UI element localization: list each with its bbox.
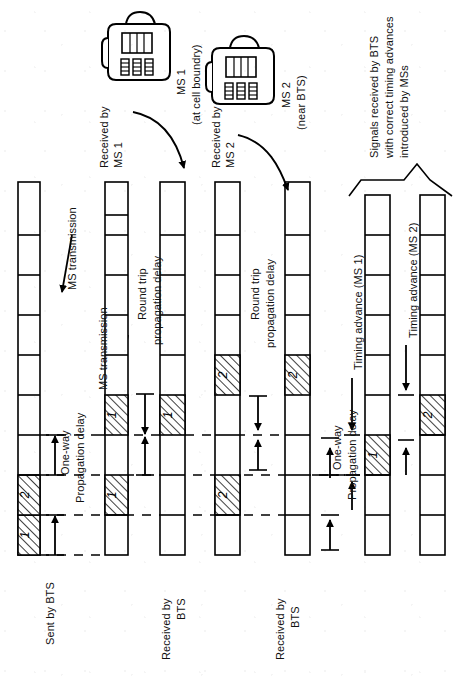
annotation-timing-advance-ms2: Timing advance (MS 2) (407, 223, 420, 338)
annotation-one-way-b-line2: Propagation delay (346, 410, 359, 500)
column-corrected-ms2 (420, 195, 445, 555)
annotation-round-trip-2-line2: propagation delay (264, 259, 277, 348)
round-trip-arrows-2 (249, 396, 267, 470)
annotation-one-way-a-line1: One-way (59, 430, 72, 475)
mobile-handset-icon-ms1 (102, 12, 170, 80)
bracket-note-line3: introduced by MSs (398, 65, 411, 158)
annotation-round-trip-1-line1: Round trip (136, 268, 149, 320)
label-received-by-ms1-line1: Received by (98, 106, 111, 168)
slot-number: 1 (161, 412, 175, 419)
slot-number: 2 (18, 491, 32, 499)
slot-number: 2 (216, 371, 230, 379)
label-received-by-ms1-line2: MS 1 (112, 142, 125, 168)
annotation-round-trip-1-line2: propagation delay (151, 256, 164, 345)
annotation-one-way-b-line1: One-way (331, 425, 344, 470)
annotation-round-trip-2-line1: Round trip (249, 268, 262, 320)
mobile-handset-icon-ms2 (206, 36, 274, 104)
label-received-by-bts-2-line2: BTS (289, 606, 302, 628)
timing-reference-lines (40, 435, 360, 555)
slot-number: 1 (366, 452, 380, 459)
annotation-ms-transmission-1: MS transmission (66, 207, 79, 290)
bracket-note-line2: with correct timing advances (383, 16, 396, 158)
slot-number: 1 (18, 532, 32, 539)
column-received-by-bts-2 (285, 182, 310, 555)
slot-number: 1 (105, 412, 119, 419)
annotation-ms-transmission-2: MS transmission (97, 307, 110, 390)
slot-number: 1 (105, 492, 119, 499)
device-qualifier-ms2: (near BTS) (295, 75, 308, 130)
device-qualifier-ms1: (at cell boundry) (190, 44, 203, 125)
device-name-ms2: MS 2 (280, 82, 293, 108)
slot-number: 2 (286, 371, 300, 379)
annotation-timing-advance-ms1: Timing advance (MS 1) (352, 255, 365, 370)
label-received-by-ms2-line2: MS 2 (224, 142, 237, 168)
slot-number: 2 (421, 411, 435, 419)
bracket-note-line1: Signals received by BTS (368, 36, 381, 158)
timing-advance-ms2-arrow (398, 345, 414, 475)
annotation-one-way-a-line2: Propagation delay (74, 413, 87, 503)
label-sent-by-bts: Sent by BTS (44, 582, 57, 645)
label-received-by-bts-1-line2: BTS (175, 598, 188, 620)
slot-number: 2 (216, 491, 230, 499)
device-name-ms1: MS 1 (175, 69, 188, 95)
label-received-by-ms2-line1: Received by (210, 106, 223, 168)
label-received-by-bts-1-line1: Received by (160, 598, 173, 660)
group-bracket (349, 164, 452, 196)
label-received-by-bts-2-line1: Received by (274, 598, 287, 660)
column-corrected-ms1 (365, 195, 390, 555)
column-received-by-bts-1 (160, 182, 185, 555)
diagram-canvas: 1 2 1 1 1 2 2 2 1 2 Sent by BTS Received… (0, 0, 459, 683)
